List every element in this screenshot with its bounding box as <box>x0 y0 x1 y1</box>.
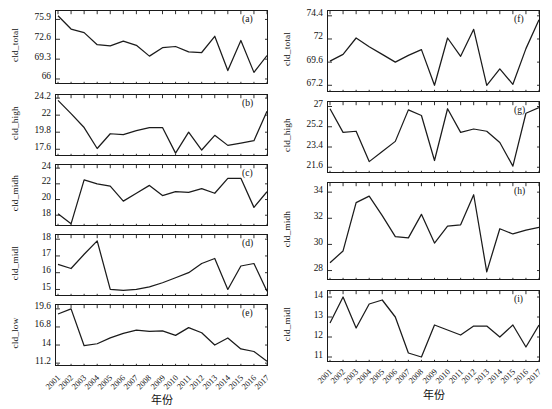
x-axis-title-right: 年份 <box>327 386 540 402</box>
x-axis-tick-labels-right: 2001200220032004200520062007200820092010… <box>0 0 552 409</box>
figure-canvas: (a)6669.372.675.9cld_total(b)17.619.8222… <box>0 0 552 409</box>
